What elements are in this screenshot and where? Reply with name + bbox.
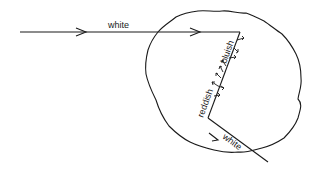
arrow-icon <box>209 133 218 141</box>
ray-diagram: white bluish reddish white <box>0 0 315 170</box>
reddish-label: reddish <box>195 88 214 119</box>
bluish-label: bluish <box>218 39 235 65</box>
outgoing-label: white <box>220 131 244 152</box>
incoming-label: white <box>107 20 129 30</box>
